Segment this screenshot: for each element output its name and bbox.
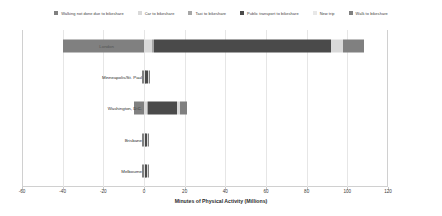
- bar-segment[interactable]: [144, 39, 152, 52]
- legend-swatch-icon: [349, 11, 353, 15]
- x-tick-label: 80: [304, 189, 309, 194]
- x-axis-title: Minutes of Physical Activity (Millions): [0, 198, 442, 204]
- bar-segment[interactable]: [148, 165, 149, 178]
- legend-item[interactable]: Walking not done due to bikeshare: [54, 11, 123, 16]
- legend-item[interactable]: Car to bikeshare: [138, 11, 175, 16]
- bar-row[interactable]: Minneapolis/St. Paul: [22, 61, 388, 92]
- legend-swatch-icon: [138, 11, 142, 15]
- x-tick-label: 100: [343, 189, 351, 194]
- bar-segment[interactable]: [154, 39, 331, 52]
- x-tick-label: -20: [100, 189, 107, 194]
- x-tick-label: 40: [223, 189, 228, 194]
- x-tick-label: 120: [384, 189, 392, 194]
- category-label: Minneapolis/St. Paul: [102, 75, 142, 80]
- category-label: Washington, D.C.: [108, 106, 142, 111]
- bar-segment[interactable]: [180, 102, 187, 115]
- legend-item-label: Taxi to bikeshare: [195, 11, 226, 16]
- legend-item-label: Public transport to bikeshare: [247, 11, 299, 16]
- legend-swatch-icon: [188, 11, 192, 15]
- x-tick-label: -60: [19, 189, 26, 194]
- bar-row[interactable]: London: [22, 30, 388, 61]
- legend-swatch-icon: [240, 11, 244, 15]
- stacked-bar[interactable]: [142, 165, 149, 178]
- bar-row[interactable]: Melbourne: [22, 156, 388, 187]
- category-label: Melbourne: [121, 169, 142, 174]
- bar-segment[interactable]: [149, 71, 150, 84]
- chart-container: Walking not done due to bikeshareCar to …: [0, 0, 442, 216]
- bar-segment[interactable]: [148, 133, 149, 146]
- legend-swatch-icon: [313, 11, 317, 15]
- legend-item-label: New trip: [320, 11, 335, 16]
- legend-item-label: Walking not done due to bikeshare: [61, 11, 123, 16]
- x-tick-label: 60: [263, 189, 268, 194]
- chart-legend: Walking not done due to bikeshareCar to …: [0, 6, 442, 20]
- legend-swatch-icon: [54, 11, 58, 15]
- legend-item-label: Car to bikeshare: [145, 11, 175, 16]
- legend-item[interactable]: Public transport to bikeshare: [240, 11, 299, 16]
- x-tick-label: 20: [182, 189, 187, 194]
- legend-item[interactable]: New trip: [313, 11, 335, 16]
- legend-item-label: Walk to bikeshare: [356, 11, 388, 16]
- bar-segment[interactable]: [331, 39, 343, 52]
- category-label: Brisbane: [125, 137, 142, 142]
- stacked-bar[interactable]: [142, 71, 150, 84]
- bar-segment[interactable]: [343, 39, 363, 52]
- bar-row[interactable]: Washington, D.C.: [22, 93, 388, 124]
- legend-item[interactable]: Walk to bikeshare: [349, 11, 388, 16]
- stacked-bar[interactable]: [142, 133, 149, 146]
- bar-segment[interactable]: [148, 102, 176, 115]
- category-label: London: [99, 43, 114, 48]
- legend-item[interactable]: Taxi to bikeshare: [188, 11, 226, 16]
- plot-area: LondonMinneapolis/St. PaulWashington, D.…: [22, 30, 388, 187]
- x-tick-label: -40: [59, 189, 66, 194]
- bar-row[interactable]: Brisbane: [22, 124, 388, 155]
- x-tick-label: 0: [143, 189, 146, 194]
